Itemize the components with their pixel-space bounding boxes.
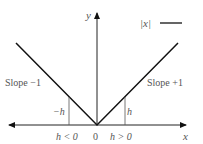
- right-tick-label: h > 0: [110, 131, 132, 142]
- left-slope-label: Slope −1: [5, 77, 41, 88]
- left-height-label: −h: [53, 106, 65, 117]
- right-slope-label: Slope +1: [147, 77, 183, 88]
- y-axis-label: y: [85, 9, 91, 21]
- right-height-label: h: [127, 106, 132, 117]
- left-tick-label: h < 0: [56, 131, 78, 142]
- legend-label: |x|: [140, 17, 151, 29]
- x-axis-label: x: [182, 130, 188, 142]
- abs-value-chart: y x |x| Slope −1 Slope +1 −h h h < 0 0 h…: [0, 0, 203, 144]
- origin-label: 0: [93, 131, 98, 142]
